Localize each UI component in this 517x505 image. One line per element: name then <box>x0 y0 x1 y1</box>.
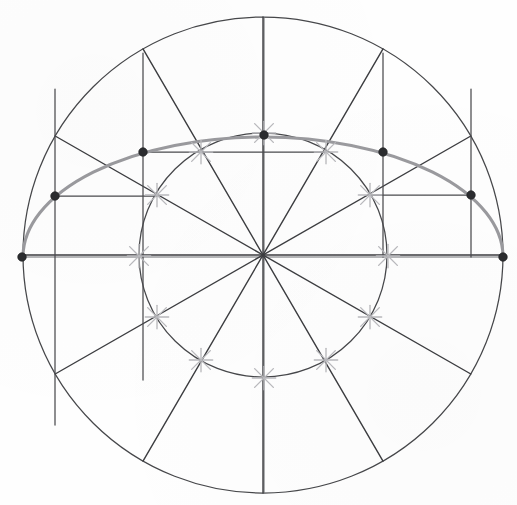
ellipse-point-P90 <box>260 131 269 140</box>
tick-cross-210deg <box>145 305 168 328</box>
ellipse-construction-figure <box>0 0 517 505</box>
ellipse-point-P0 <box>499 253 508 262</box>
tick-cross-330deg <box>358 305 381 328</box>
ellipse-point-P60 <box>379 148 388 157</box>
tick-cross-30deg <box>358 183 381 206</box>
tick-cross-240deg <box>189 348 212 371</box>
tick-cross-270deg <box>252 366 275 389</box>
tick-cross-60deg <box>314 140 337 163</box>
ellipse-point-P30 <box>467 191 476 200</box>
tick-cross-0deg <box>376 244 399 267</box>
ellipse-point-P150 <box>51 192 60 201</box>
ellipse-point-P120 <box>139 148 148 157</box>
ellipse-point-P180 <box>18 253 27 262</box>
tick-cross-150deg <box>145 183 168 206</box>
radial-lines-group <box>23 17 503 493</box>
tick-cross-120deg <box>189 140 212 163</box>
construction-canvas <box>0 0 517 505</box>
tick-cross-300deg <box>314 348 337 371</box>
tick-cross-180deg <box>127 244 150 267</box>
